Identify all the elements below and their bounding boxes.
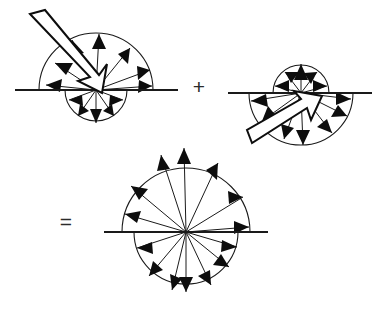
diagram-canvas: + (0, 0, 386, 312)
upper-lobe-rays-right (275, 64, 327, 93)
panel-left (15, 10, 178, 123)
incident-arrow-left (30, 10, 107, 93)
panel-right (228, 64, 372, 145)
lower-lobe-rays-left (69, 90, 123, 123)
lower-lobe-rays-result (137, 232, 237, 292)
operator-plus: + (193, 75, 205, 98)
operator-equals: = (60, 210, 72, 233)
upper-lobe-rays-result (125, 148, 249, 234)
radiation-pattern-diagram: + (0, 0, 386, 312)
panel-result (104, 148, 268, 292)
